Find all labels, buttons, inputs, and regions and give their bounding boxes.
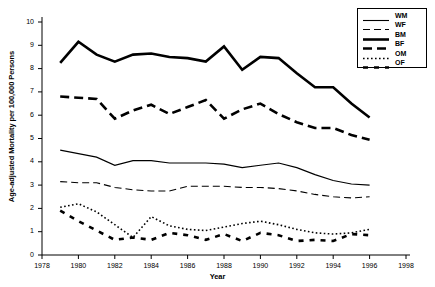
y-tick-label: 1 bbox=[20, 227, 34, 234]
y-tick-label: 7 bbox=[20, 87, 34, 94]
y-tick-label: 6 bbox=[20, 111, 34, 118]
chart-container: Age-adjusted Mortality per 100,000 Perso… bbox=[0, 0, 435, 287]
x-tick-label: 1984 bbox=[136, 262, 166, 269]
series-line-wf bbox=[60, 182, 369, 198]
legend-item-bm[interactable]: BM bbox=[361, 30, 426, 39]
series-line-of bbox=[60, 211, 369, 241]
legend-label: BM bbox=[395, 30, 406, 39]
x-tick-label: 1994 bbox=[318, 262, 348, 269]
y-tick-label: 10 bbox=[20, 18, 34, 25]
legend-swatch-om-icon bbox=[361, 49, 391, 58]
y-tick-label: 8 bbox=[20, 64, 34, 71]
chart-legend: WMWFBMBFOMOF bbox=[357, 8, 427, 68]
y-tick-label: 4 bbox=[20, 157, 34, 164]
legend-item-wm[interactable]: WM bbox=[361, 11, 426, 20]
legend-label: WF bbox=[395, 20, 406, 29]
series-line-om bbox=[60, 204, 369, 238]
x-tick-label: 1980 bbox=[63, 262, 93, 269]
series-line-bf bbox=[60, 97, 369, 140]
legend-label: OF bbox=[395, 58, 405, 67]
series-line-bm bbox=[60, 42, 369, 118]
legend-swatch-wf-icon bbox=[361, 20, 391, 29]
y-tick-label: 5 bbox=[20, 134, 34, 141]
series-line-wm bbox=[60, 150, 369, 185]
legend-item-wf[interactable]: WF bbox=[361, 20, 426, 29]
y-tick-label: 2 bbox=[20, 204, 34, 211]
x-tick-label: 1988 bbox=[209, 262, 239, 269]
y-tick-label: 0 bbox=[20, 251, 34, 258]
x-axis-title: Year bbox=[0, 272, 435, 281]
legend-label: OM bbox=[395, 49, 406, 58]
legend-swatch-bm-icon bbox=[361, 30, 391, 39]
x-tick-label: 1996 bbox=[355, 262, 385, 269]
legend-item-om[interactable]: OM bbox=[361, 49, 426, 58]
y-tick-label: 3 bbox=[20, 181, 34, 188]
y-axis-title: Age-adjusted Mortality per 100,000 Perso… bbox=[7, 32, 16, 222]
legend-swatch-of-icon bbox=[361, 58, 391, 67]
legend-swatch-bf-icon bbox=[361, 39, 391, 48]
legend-label: WM bbox=[395, 11, 407, 20]
legend-item-of[interactable]: OF bbox=[361, 58, 426, 67]
x-tick-label: 1982 bbox=[100, 262, 130, 269]
legend-label: BF bbox=[395, 39, 404, 48]
chart-series-group bbox=[60, 42, 369, 241]
x-tick-label: 1998 bbox=[391, 262, 421, 269]
legend-swatch-wm-icon bbox=[361, 11, 391, 20]
legend-item-bf[interactable]: BF bbox=[361, 39, 426, 48]
y-tick-label: 9 bbox=[20, 41, 34, 48]
x-tick-label: 1992 bbox=[282, 262, 312, 269]
x-tick-label: 1978 bbox=[27, 262, 57, 269]
x-tick-label: 1986 bbox=[173, 262, 203, 269]
x-tick-label: 1990 bbox=[245, 262, 275, 269]
